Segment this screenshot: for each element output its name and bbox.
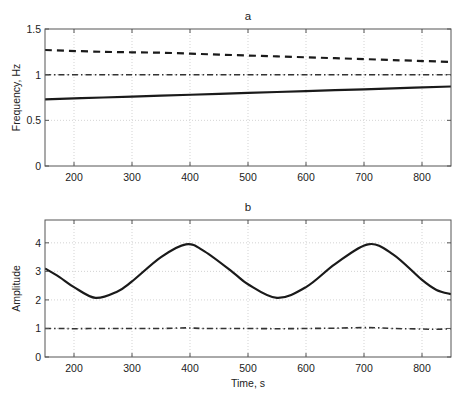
panel-a-frequency: 20030040050060070080000.511.5aFrequency,… <box>10 10 451 183</box>
grid <box>45 220 451 357</box>
y-tick-label: 3 <box>35 265 41 277</box>
x-tick-label: 300 <box>123 362 141 374</box>
axes-frame <box>45 220 451 357</box>
series-line-dashed <box>45 50 451 62</box>
x-tick-label: 400 <box>181 362 199 374</box>
y-tick-label: 1 <box>35 322 41 334</box>
x-tick-label: 200 <box>65 362 83 374</box>
panel-title: b <box>245 201 251 213</box>
figure: 20030040050060070080000.511.5aFrequency,… <box>0 0 468 396</box>
series-line-solid <box>45 87 451 100</box>
x-tick-label: 600 <box>297 362 315 374</box>
x-tick-label: 800 <box>413 362 431 374</box>
x-axis-label: Time, s <box>231 377 265 389</box>
y-tick-label: 2 <box>35 294 41 306</box>
y-tick-label: 0 <box>35 351 41 363</box>
x-tick-label: 200 <box>65 171 83 183</box>
y-tick-label: 0 <box>35 160 41 172</box>
y-tick-label: 1.5 <box>26 23 41 35</box>
y-axis-label: Amplitude <box>10 265 22 312</box>
y-tick-label: 1 <box>35 69 41 81</box>
y-tick-label: 0.5 <box>26 114 41 126</box>
x-tick-label: 500 <box>239 362 257 374</box>
panel-title: a <box>245 10 252 22</box>
x-tick-label: 800 <box>413 171 431 183</box>
x-tick-label: 500 <box>239 171 257 183</box>
panel-b-amplitude: 20030040050060070080001234bAmplitudeTime… <box>10 201 451 389</box>
y-tick-label: 4 <box>35 237 41 249</box>
x-tick-label: 600 <box>297 171 315 183</box>
x-tick-label: 400 <box>181 171 199 183</box>
x-tick-label: 300 <box>123 171 141 183</box>
y-axis-label: Frequency, Hz <box>10 64 22 132</box>
x-tick-label: 700 <box>355 362 373 374</box>
x-tick-label: 700 <box>355 171 373 183</box>
